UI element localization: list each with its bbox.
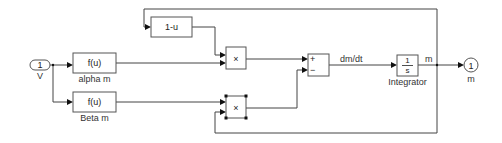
- fcn-beta-label: Beta m: [80, 113, 109, 123]
- sum-minus-sign: −: [310, 65, 315, 75]
- product-block-top[interactable]: ×: [226, 47, 246, 69]
- arrow-icon: [220, 99, 226, 105]
- integrator-denominator: s: [406, 66, 410, 75]
- arrow-icon: [391, 62, 397, 68]
- outport-number: 1: [468, 61, 473, 71]
- selection-handle[interactable]: [245, 117, 248, 120]
- fcn-block-beta[interactable]: f(u) Beta m: [73, 92, 116, 123]
- fcn-block-alpha[interactable]: f(u) alpha m: [73, 53, 116, 84]
- arrow-icon: [220, 60, 226, 66]
- arrow-icon: [145, 24, 151, 30]
- signal-label-dmdt: dm/dt: [340, 54, 363, 64]
- signal-one-minus-m[interactable]: [192, 27, 222, 55]
- fcn-one-minus-u-text: 1-u: [165, 22, 178, 32]
- inport-v[interactable]: 1 V: [30, 60, 50, 81]
- product-block-bottom[interactable]: ×: [225, 95, 248, 120]
- integrator-label: Integrator: [388, 77, 427, 87]
- signal-product-bottom[interactable]: [246, 70, 304, 108]
- fcn-alpha-text: f(u): [88, 58, 102, 68]
- selection-handle[interactable]: [245, 95, 248, 98]
- inport-label: V: [37, 71, 43, 81]
- inport-number: 1: [37, 60, 42, 70]
- diagram-canvas: dm/dt m 1 V f(u) alpha m f(u) Beta m 1-u…: [0, 0, 502, 143]
- selection-handle[interactable]: [225, 95, 228, 98]
- arrow-icon: [220, 52, 226, 58]
- product-top-symbol: ×: [233, 54, 238, 64]
- arrow-icon: [302, 56, 308, 62]
- sum-plus-sign: +: [310, 54, 315, 64]
- integrator-numerator: 1: [405, 56, 410, 65]
- branch-point-m: [436, 64, 438, 66]
- sum-block[interactable]: + −: [308, 54, 329, 76]
- arrow-icon: [220, 109, 226, 115]
- outport-m[interactable]: 1 m: [464, 58, 478, 84]
- integrator-block[interactable]: 1 s Integrator: [388, 55, 427, 87]
- selection-handle[interactable]: [225, 117, 228, 120]
- signal-label-m: m: [425, 54, 433, 64]
- outport-label: m: [467, 74, 475, 84]
- arrow-icon: [458, 62, 464, 68]
- fcn-alpha-label: alpha m: [78, 74, 110, 84]
- product-bottom-symbol: ×: [233, 103, 238, 113]
- arrow-icon: [67, 99, 73, 105]
- fcn-block-one-minus-u[interactable]: 1-u: [151, 17, 192, 37]
- branch-point-v: [52, 64, 54, 66]
- arrow-icon: [302, 67, 308, 73]
- arrow-icon: [67, 62, 73, 68]
- fcn-beta-text: f(u): [88, 97, 102, 107]
